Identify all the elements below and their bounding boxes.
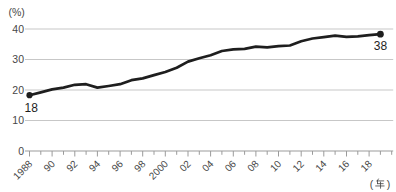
x-axis-labels: 198890929496982000020406081012141618 bbox=[11, 158, 374, 182]
x-unit-open-paren: ( bbox=[370, 178, 374, 190]
x-tick-label: 90 bbox=[41, 158, 57, 174]
x-unit-close-paren: ) bbox=[387, 178, 391, 190]
x-tick-label: 08 bbox=[245, 158, 261, 174]
x-tick-label: 1988 bbox=[11, 158, 35, 182]
x-tick-label: 16 bbox=[336, 158, 352, 174]
y-tick-label: 20 bbox=[12, 84, 24, 96]
y-tick-label: 0 bbox=[18, 145, 24, 157]
x-axis-ticks bbox=[30, 151, 392, 157]
x-unit-label: () bbox=[370, 178, 391, 190]
percentage-trend-line-chart: 010203040(%)1988909294969820000204060810… bbox=[0, 0, 396, 192]
start-value-label: 18 bbox=[25, 101, 39, 115]
data-line bbox=[30, 34, 381, 95]
x-tick-label: 94 bbox=[87, 158, 103, 174]
end-value-label: 38 bbox=[374, 39, 388, 53]
y-tick-label: 40 bbox=[12, 23, 24, 35]
x-tick-label: 96 bbox=[109, 158, 125, 174]
x-tick-label: 02 bbox=[177, 158, 193, 174]
x-tick-label: 10 bbox=[268, 158, 284, 174]
x-tick-label: 2000 bbox=[147, 158, 171, 182]
y-unit-label: (%) bbox=[9, 6, 25, 18]
end-point bbox=[377, 31, 384, 38]
y-axis-labels: 010203040(%) bbox=[9, 6, 25, 157]
y-tick-label: 30 bbox=[12, 53, 24, 65]
start-point bbox=[26, 92, 32, 98]
x-tick-label: 92 bbox=[64, 158, 80, 174]
x-tick-label: 14 bbox=[313, 158, 329, 174]
year-kanji-glyph bbox=[376, 179, 384, 188]
gridlines bbox=[25, 29, 393, 121]
chart-canvas: 010203040(%)1988909294969820000204060810… bbox=[0, 0, 396, 192]
x-tick-label: 06 bbox=[223, 158, 239, 174]
x-tick-label: 12 bbox=[290, 158, 306, 174]
y-tick-label: 10 bbox=[12, 114, 24, 126]
x-tick-label: 98 bbox=[132, 158, 148, 174]
x-tick-label: 04 bbox=[200, 158, 216, 174]
x-tick-label: 18 bbox=[358, 158, 374, 174]
